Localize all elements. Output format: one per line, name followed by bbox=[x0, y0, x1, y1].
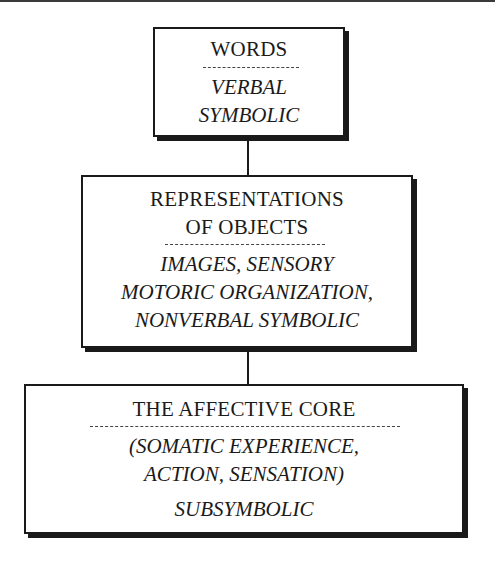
box-representations: REPRESENTATIONS OF OBJECTS IMAGES, SENSO… bbox=[81, 175, 413, 348]
box-representations-detail-3: NONVERBAL SYMBOLIC bbox=[83, 308, 411, 333]
page-top-rule bbox=[0, 0, 495, 2]
box-representations-heading-2: OF OBJECTS bbox=[83, 215, 411, 240]
box-affective-core-detail-3: SUBSYMBOLIC bbox=[26, 497, 462, 522]
box-words-detail-1: VERBAL bbox=[155, 75, 343, 100]
connector-words-representations bbox=[247, 139, 249, 176]
box-representations-detail-1: IMAGES, SENSORY bbox=[83, 252, 411, 277]
box-words-heading: WORDS bbox=[155, 37, 343, 62]
connector-representations-affective-core bbox=[247, 350, 249, 385]
box-affective-core-divider bbox=[90, 426, 400, 427]
box-affective-core-heading: THE AFFECTIVE CORE bbox=[26, 397, 462, 422]
box-representations-divider bbox=[165, 244, 325, 245]
box-words-divider bbox=[203, 67, 299, 68]
box-words-detail-2: SYMBOLIC bbox=[155, 103, 343, 128]
box-representations-detail-2: MOTORIC ORGANIZATION, bbox=[83, 280, 411, 305]
box-representations-heading-1: REPRESENTATIONS bbox=[83, 187, 411, 212]
box-affective-core-detail-2: ACTION, SENSATION) bbox=[26, 462, 462, 487]
box-affective-core-detail-1: (SOMATIC EXPERIENCE, bbox=[26, 434, 462, 459]
box-words: WORDS VERBAL SYMBOLIC bbox=[153, 27, 345, 137]
box-affective-core: THE AFFECTIVE CORE (SOMATIC EXPERIENCE, … bbox=[24, 384, 464, 534]
